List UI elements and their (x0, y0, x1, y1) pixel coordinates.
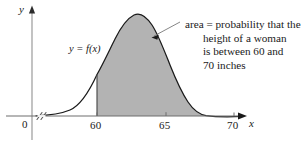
annotation-line-2: height of a woman (185, 32, 301, 46)
x-axis-arrowhead-icon (238, 113, 247, 120)
annotation-line-3: is between 60 and (185, 45, 301, 59)
origin-label: 0 (22, 119, 28, 130)
curve-equation-label: y = f(x) (69, 44, 101, 55)
annotation-leader-line (154, 22, 180, 36)
y-axis-arrowhead-icon (29, 6, 35, 14)
annotation-line-1: area = probability that the (185, 18, 301, 32)
x-tick-label-65: 65 (159, 120, 170, 131)
annotation-text-block: area = probability that the height of a … (185, 18, 301, 72)
probability-density-figure: y x 0 60 65 70 y = f(x) area = probabili… (0, 0, 307, 144)
y-axis-label: y (19, 4, 24, 15)
x-tick-label-60: 60 (90, 120, 101, 131)
annotation-line-4: 70 inches (185, 59, 301, 73)
x-axis-label: x (249, 118, 254, 129)
x-tick-label-70: 70 (227, 120, 238, 131)
